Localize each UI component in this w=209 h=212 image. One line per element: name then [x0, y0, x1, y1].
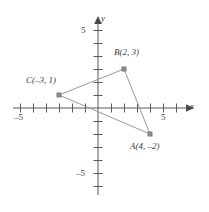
x-axis-label: x	[190, 101, 194, 111]
point-label-a: A(4, –2)	[130, 141, 160, 151]
x-tick-label-negative-5: –5	[14, 112, 23, 122]
triangle-segments	[59, 69, 150, 134]
y-tick-label-negative-5: –5	[76, 168, 85, 178]
point-marker-b	[122, 67, 126, 71]
segment-b-c	[59, 69, 124, 95]
x-tick-label-positive-5: 5	[161, 112, 166, 122]
point-marker-c	[57, 93, 61, 97]
y-tick-label-positive-5: 5	[81, 25, 86, 35]
coordinate-plane-figure: x y –5 5 5 –5 B(2, 3) C(–3, 1) A(4, –2)	[0, 0, 209, 212]
point-label-b: B(2, 3)	[114, 47, 139, 57]
point-label-c: C(–3, 1)	[26, 75, 56, 85]
plot-canvas	[0, 0, 209, 212]
point-marker-a	[148, 132, 152, 136]
y-axis-label: y	[101, 13, 105, 23]
